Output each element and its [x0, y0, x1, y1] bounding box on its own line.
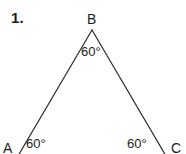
vertex-label-a: A	[3, 141, 12, 154]
angle-label-a: 60°	[26, 137, 46, 150]
angle-label-c: 60°	[127, 137, 147, 150]
angle-label-b: 60°	[81, 45, 101, 58]
geometry-figure: 1. B A C 60° 60° 60°	[0, 0, 186, 154]
vertex-label-c: C	[171, 141, 181, 154]
vertex-label-b: B	[87, 12, 96, 26]
problem-number-label: 1.	[11, 10, 24, 25]
